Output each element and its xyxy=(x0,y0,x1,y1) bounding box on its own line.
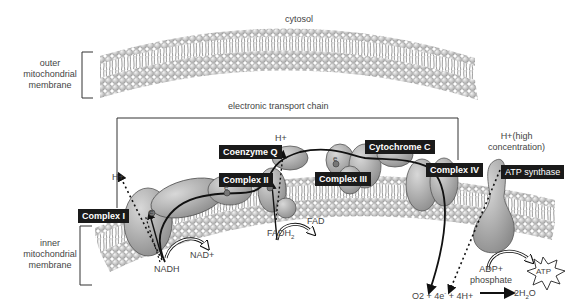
nad-plus-label: NAD+ xyxy=(190,250,214,261)
fadh2-label: FADH2 xyxy=(267,228,294,243)
h-plus-high-label: H+(high concentration) xyxy=(488,131,545,153)
adp-label: ADP+ phosphate xyxy=(470,264,512,286)
h-plus-label-coq: H+ xyxy=(275,133,287,144)
outer-membrane-label-line3: membrane xyxy=(18,80,82,91)
outer-membrane-bracket xyxy=(82,52,93,98)
complex-3-label: Complex III xyxy=(315,172,371,186)
water-h: 2H xyxy=(514,288,526,298)
water-o: O xyxy=(529,288,536,298)
atp-synthase-label: ATP synthase xyxy=(501,165,564,179)
fad-label: FAD xyxy=(307,216,325,227)
coenzyme-q-label: Coenzyme Q xyxy=(219,145,282,159)
fadh2-subscript: 2 xyxy=(291,234,294,240)
cytochrome-c-label: Cytochrome C xyxy=(365,140,435,154)
atp-label: ATP xyxy=(536,266,551,277)
nadh-label: NADH xyxy=(154,264,180,275)
outer-membrane-label: outer mitochondrial membrane xyxy=(18,58,82,91)
reaction-mid: + 4H+ xyxy=(446,291,473,301)
electron-label: e xyxy=(149,206,153,217)
inner-membrane-label: inner mitochondrial membrane xyxy=(18,238,82,271)
cytosol-label: cytosol xyxy=(285,14,313,25)
fadh2-text: FADH xyxy=(267,228,291,238)
etc-title: electronic transport chain xyxy=(228,101,329,112)
electron-label: e xyxy=(224,182,228,193)
inner-membrane-label-line3: membrane xyxy=(18,260,82,271)
electron-label: e xyxy=(333,153,337,164)
complex-4-label: Complex IV xyxy=(426,163,483,177)
reaction-product: 2H2O xyxy=(514,288,536,303)
reaction-equation: O2 + 4e- + 4H+ xyxy=(412,288,473,302)
etc-diagram-canvas xyxy=(0,0,586,307)
outer-membrane-label-line2: mitochondrial xyxy=(18,69,82,80)
inner-membrane-label-line2: mitochondrial xyxy=(18,249,82,260)
adp-line1: ADP+ xyxy=(470,264,512,275)
outer-membrane xyxy=(100,28,478,100)
h-plus-label-left: H+ xyxy=(112,172,124,183)
adp-line2: phosphate xyxy=(470,275,512,286)
outer-membrane-label-line1: outer xyxy=(18,58,82,69)
reaction-left: O2 + 4e xyxy=(412,291,444,301)
h-plus-high-line2: concentration) xyxy=(488,142,545,153)
complex-1-label: Complex I xyxy=(78,209,129,223)
h-plus-high-line1: H+(high xyxy=(488,131,545,142)
inner-membrane-label-line1: inner xyxy=(18,238,82,249)
